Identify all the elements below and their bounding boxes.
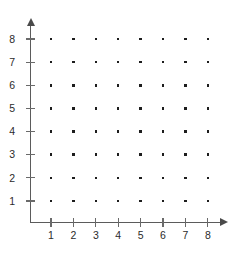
lattice-dot [162,107,165,110]
lattice-dot [72,107,75,110]
x-tick-label-5: 5 [133,230,149,241]
lattice-dot [207,177,210,180]
y-tick-label-7: 7 [1,57,15,68]
lattice-dot [184,177,187,180]
lattice-dot [72,61,75,64]
lattice-dot [50,107,53,110]
lattice-dot [95,200,98,203]
y-tick-label-3: 3 [1,149,15,160]
lattice-dot [72,177,75,180]
lattice-dot [184,107,187,110]
lattice-dot [95,130,98,133]
lattice-dot [184,153,187,156]
y-tick-label-8: 8 [1,34,15,45]
lattice-dot [72,200,75,203]
lattice-dot [207,200,210,203]
lattice-dot [207,38,210,41]
lattice-dot [117,130,120,133]
lattice-dot [117,38,120,41]
y-tick-label-6: 6 [1,80,15,91]
lattice-dot [95,153,98,156]
y-tick-7 [26,62,35,63]
lattice-dot [184,61,187,64]
lattice-dot [117,61,120,64]
lattice-dot [139,153,142,156]
x-tick-label-6: 6 [155,230,171,241]
lattice-dot [117,177,120,180]
lattice-dot [50,84,53,87]
lattice-dot [95,177,98,180]
y-tick-label-4: 4 [1,126,15,137]
lattice-dot [184,84,187,87]
lattice-dot [117,84,120,87]
lattice-dot [139,38,142,41]
lattice-dot [162,153,165,156]
lattice-dot [95,84,98,87]
y-tick-8 [26,38,35,39]
lattice-dot [50,153,53,156]
x-tick-label-1: 1 [43,230,59,241]
lattice-dot [72,84,75,87]
x-tick-label-4: 4 [110,230,126,241]
x-tick-label-8: 8 [200,230,216,241]
lattice-dot [95,107,98,110]
lattice-dot [72,130,75,133]
lattice-dot [50,177,53,180]
coordinate-grid-plot: 87654321 12345678 [0,0,243,254]
lattice-dot [139,84,142,87]
x-tick-6 [162,218,163,227]
y-tick-label-5: 5 [1,103,15,114]
lattice-dot [162,200,165,203]
lattice-dot [139,107,142,110]
y-tick-6 [26,85,35,86]
x-tick-5 [140,218,141,227]
x-tick-7 [185,218,186,227]
arrow-up-icon [27,18,35,26]
lattice-dot [50,38,53,41]
arrow-right-icon [220,218,228,226]
y-tick-4 [26,131,35,132]
lattice-dot [162,130,165,133]
lattice-dot [207,61,210,64]
lattice-dot [184,130,187,133]
y-tick-3 [26,154,35,155]
y-tick-2 [26,177,35,178]
x-tick-label-3: 3 [88,230,104,241]
lattice-dot [139,130,142,133]
x-tick-1 [50,218,51,227]
lattice-dot [184,38,187,41]
lattice-dot [207,153,210,156]
lattice-dot [207,84,210,87]
x-tick-4 [118,218,119,227]
lattice-dot [139,177,142,180]
lattice-dot [95,61,98,64]
x-tick-8 [207,218,208,227]
y-axis-line [30,24,31,223]
x-tick-2 [73,218,74,227]
lattice-dot [139,61,142,64]
lattice-dot [117,107,120,110]
y-tick-5 [26,108,35,109]
x-axis-line [30,222,223,223]
lattice-dot [72,153,75,156]
lattice-dot [50,130,53,133]
lattice-dot [139,200,142,203]
lattice-dot [162,61,165,64]
lattice-dot [184,200,187,203]
y-tick-1 [26,200,35,201]
lattice-dot [162,177,165,180]
lattice-dot [117,200,120,203]
lattice-dot [72,38,75,41]
lattice-dot [162,38,165,41]
lattice-dot [117,153,120,156]
x-tick-label-7: 7 [177,230,193,241]
lattice-dot [207,130,210,133]
x-tick-label-2: 2 [65,230,81,241]
lattice-dot [50,200,53,203]
y-tick-label-2: 2 [1,173,15,184]
lattice-dot [95,38,98,41]
lattice-dot [162,84,165,87]
lattice-dot [50,61,53,64]
y-tick-label-1: 1 [1,196,15,207]
x-tick-3 [95,218,96,227]
